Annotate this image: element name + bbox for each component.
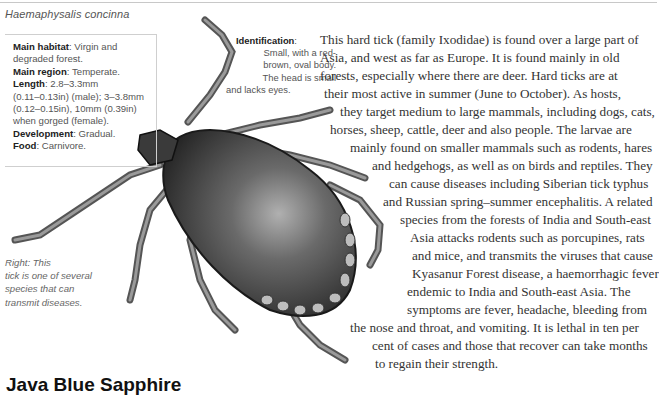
body-line: to regain their strength. [375,356,498,372]
fact-label-main-region: Main region [13,66,67,77]
body-line: they target medium to large mammals, inc… [340,104,655,120]
fact-line: degraded forest. [13,53,156,65]
fact-line: Length: 2.8–3.3mm [13,78,156,90]
body-line: and mice, and transmits the viruses that… [412,248,653,264]
fact-box: Main habitat: Virgin and degraded forest… [5,34,157,167]
fact-line: Development: Gradual. [13,128,156,140]
body-line: Asia, and west as far as Europe. It is f… [320,50,620,66]
fact-line: (0.11–0.13in) (male); 3–3.8mm [13,91,156,103]
fact-line: Food: Carnivore. [13,140,156,152]
body-line: and hedgehogs, as well as on birds and r… [372,158,653,174]
fact-value: : Gradual. [73,128,115,139]
fact-value: (0.11–0.13in) (male); 3–3.8mm [13,91,144,102]
body-line: cent of cases and those that recover can… [372,338,648,354]
body-line: the nose and throat, and vomiting. It is… [350,320,639,336]
body-line: This hard tick (family Ixodidae) is foun… [320,32,639,48]
caption-line: Right: This [5,256,115,269]
caption-line: tick is one of several [5,269,115,282]
fact-line: Main habitat: Virgin and [13,41,156,53]
next-section-heading: Java Blue Sapphire [6,374,181,396]
body-line: horses, sheep, cattle, deer and also peo… [330,122,632,138]
fact-line: (0.12–0.15in), 10mm (0.39in) [13,103,156,115]
body-line: species from the forests of India and So… [400,212,651,228]
body-line: their most active in summer (June to Oct… [324,86,621,102]
body-line: Kyasanur Forest disease, a haemorrhagic … [412,266,659,282]
body-line: Asia attacks rodents such as porcupines,… [410,230,645,246]
fact-value: degraded forest. [13,53,83,64]
body-line: mainly found on smaller mammals such as … [350,140,652,156]
fact-value: (0.12–0.15in), 10mm (0.39in) [13,103,137,114]
body-line: symptoms are fever, headache, bleeding f… [407,302,647,318]
body-line: and Russian spring–summer encephalitis. … [383,194,653,210]
fact-value: when gorged (female). [13,115,109,126]
fact-line: when gorged (female). [13,115,156,127]
fact-label-development: Development [13,128,73,139]
identification-label: Identification [236,35,294,46]
caption-line: transmit diseases. [5,296,115,309]
fact-value: : Carnivore. [36,140,86,151]
identification-line: and lacks eyes. [226,84,336,96]
fact-label-length: Length [13,78,45,89]
image-caption: Right: This tick is one of several speci… [5,256,115,309]
body-line: forests, especially where there are deer… [320,68,618,84]
fact-label-food: Food [13,140,36,151]
body-line: can cause diseases including Siberian ti… [389,176,648,192]
body-line: endemic to India and South-east Asia. Th… [407,284,631,300]
fact-label-main-habitat: Main habitat [13,41,69,52]
fact-value: : 2.8–3.3mm [45,78,98,89]
fact-value: : Temperate. [67,66,120,77]
caption-line: species that can [5,282,115,295]
identification-colon: : [294,35,297,46]
fact-value: : Virgin and [69,41,117,52]
fact-line: Main region: Temperate. [13,66,156,78]
